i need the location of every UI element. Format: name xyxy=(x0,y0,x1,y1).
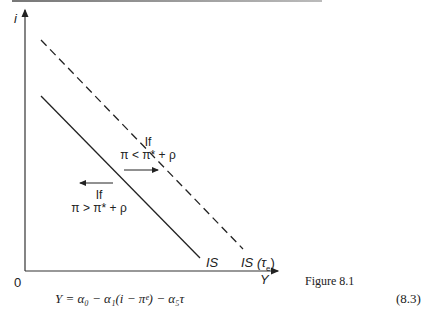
annotation-rightward: If π < π* + ρ xyxy=(118,136,178,162)
annotation-condition: π < π* + ρ xyxy=(118,149,178,162)
origin-label: 0 xyxy=(14,276,21,289)
is-tau-e-label: IS (τe) xyxy=(241,256,275,275)
label-main: IS (τ xyxy=(241,255,266,270)
equation: Y = α₀ − α₁(i − πᵉ) − α₅τ xyxy=(55,292,184,305)
figure-caption: Figure 8.1 xyxy=(305,275,354,288)
annotation-condition: π > π* + ρ xyxy=(64,202,134,215)
y-axis-label: i xyxy=(14,12,17,25)
x-axis-label: Y xyxy=(260,273,269,286)
label-close: ) xyxy=(271,255,275,270)
equation-number: (8.3) xyxy=(396,292,421,305)
annotation-leftward: If π > π* + ρ xyxy=(64,189,134,215)
is-curve xyxy=(41,96,200,258)
is-curve-label: IS xyxy=(206,256,218,269)
is-curve-diagram xyxy=(0,0,440,312)
